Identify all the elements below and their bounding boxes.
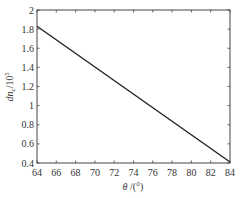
x-tick-label: 72: [109, 167, 119, 178]
x-tick-label: 80: [186, 167, 196, 178]
series-line: [37, 26, 230, 162]
x-tick-label: 70: [90, 167, 100, 178]
y-tick-label: 0.8: [22, 119, 35, 130]
plot-area: [37, 10, 230, 163]
line-chart: 6466687072747678808284 0.40.60.811.21.41…: [0, 0, 242, 198]
y-axis-label: dnc/105: [4, 73, 17, 102]
x-tick-label: 82: [206, 167, 216, 178]
x-tick-label: 64: [32, 167, 42, 178]
y-tick-label: 1.6: [22, 43, 35, 54]
y-tick-label: 1.4: [22, 62, 35, 73]
x-tick-label: 74: [129, 167, 139, 178]
y-tick-label: 0.6: [22, 138, 35, 149]
y-tick-label: 0.4: [22, 158, 35, 169]
y-tick-label: 1: [29, 100, 34, 111]
x-tick-label: 76: [148, 167, 158, 178]
y-tick-label: 2: [29, 5, 34, 16]
x-tick-label: 66: [51, 167, 61, 178]
x-tick-label: 78: [167, 167, 177, 178]
y-axis-ticks: 0.40.60.811.21.41.61.82: [22, 5, 231, 169]
y-tick-label: 1.2: [22, 81, 35, 92]
x-tick-label: 84: [225, 167, 235, 178]
x-axis-label: θ /(°): [123, 181, 144, 193]
x-tick-label: 68: [71, 167, 81, 178]
y-tick-label: 1.8: [22, 24, 35, 35]
plot-frame: [37, 10, 230, 163]
